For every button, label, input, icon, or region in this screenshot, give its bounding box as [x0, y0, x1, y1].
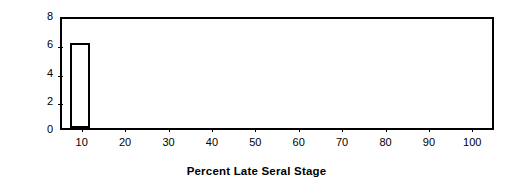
y-axis-tick-mark [58, 104, 63, 105]
y-axis-tick-mark [58, 76, 63, 77]
x-axis-tick-label: 50 [238, 136, 272, 148]
y-axis-tick-label: 6 [31, 39, 53, 50]
x-axis-tick-label: 100 [455, 136, 489, 148]
x-axis-title: Percent Late Seral Stage [0, 165, 513, 177]
x-axis-tick-label: 60 [282, 136, 316, 148]
x-axis-tick-label: 40 [195, 136, 229, 148]
y-axis-tick-label: 4 [31, 68, 53, 79]
x-axis-tick-label: 80 [369, 136, 403, 148]
y-axis-tick-label: 0 [31, 124, 53, 135]
plot-frame [60, 17, 494, 130]
y-axis-tick-mark [58, 47, 63, 48]
plot-area [62, 19, 492, 128]
y-axis-tick-label: 8 [31, 11, 53, 22]
x-axis-tick-label: 10 [65, 136, 99, 148]
x-axis-tick-label: 90 [412, 136, 446, 148]
chart-figure: Number of WAUs 02468 1020304050607080901… [0, 0, 513, 188]
y-axis-tick-label: 2 [31, 96, 53, 107]
x-axis-tick-label: 20 [108, 136, 142, 148]
x-axis-tick-label: 70 [325, 136, 359, 148]
bar [70, 43, 90, 128]
x-axis-tick-label: 30 [152, 136, 186, 148]
